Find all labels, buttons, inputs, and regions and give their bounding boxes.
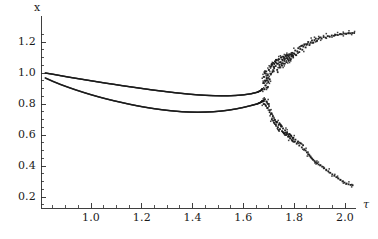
data-point [268, 106, 270, 108]
data-point [326, 170, 328, 172]
data-point [284, 134, 286, 136]
data-point [314, 36, 316, 38]
data-point [286, 60, 288, 62]
data-point [282, 67, 284, 69]
data-point [289, 136, 291, 138]
y-axis-tick-label: 1.0 [4, 66, 36, 79]
data-point [320, 40, 322, 42]
data-point [307, 43, 309, 45]
data-point [287, 58, 289, 60]
data-point [287, 62, 289, 64]
data-point [295, 139, 297, 141]
data-point [293, 139, 295, 141]
data-point [269, 76, 271, 78]
data-point [274, 123, 276, 125]
data-point [334, 174, 336, 176]
data-point [343, 35, 345, 37]
y-axis-tick-label: 0.6 [4, 128, 36, 141]
data-point [345, 183, 347, 185]
data-point [284, 129, 286, 131]
data-point [264, 88, 266, 90]
x-axis-tick-label: 1.2 [128, 211, 156, 224]
data-point [262, 88, 263, 89]
data-point [292, 55, 294, 57]
data-point [262, 74, 264, 76]
data-point [289, 62, 291, 64]
data-point [284, 63, 286, 65]
data-point [303, 149, 305, 151]
data-point [281, 57, 283, 59]
x-axis-tick-label: 1.4 [179, 211, 207, 224]
data-point [286, 129, 288, 131]
data-point [305, 147, 307, 149]
data-point [269, 79, 271, 81]
data-point [269, 83, 271, 85]
data-point [328, 36, 330, 38]
data-point [267, 67, 269, 69]
data-point [266, 107, 268, 109]
data-point [264, 80, 266, 82]
data-point [345, 33, 347, 35]
data-point [342, 31, 344, 33]
data-point [281, 65, 283, 67]
data-point [280, 63, 282, 65]
data-point [320, 164, 322, 166]
data-point [264, 73, 266, 75]
data-point [278, 56, 280, 58]
plot-area [0, 0, 378, 239]
data-point [315, 163, 317, 165]
data-point [301, 143, 303, 145]
data-point [272, 69, 274, 71]
data-point [337, 32, 339, 34]
data-point [281, 126, 283, 128]
data-point [277, 120, 279, 122]
data-point [312, 159, 314, 161]
data-point [303, 51, 305, 53]
data-point [270, 67, 272, 69]
y-axis-tick-label: 0.8 [4, 97, 36, 110]
data-point [316, 41, 318, 43]
data-point [294, 50, 296, 52]
data-point [277, 60, 279, 62]
data-point [305, 150, 307, 152]
data-point [269, 115, 271, 117]
data-point [348, 181, 350, 183]
data-point [292, 141, 294, 143]
data-point [277, 128, 279, 130]
data-point [282, 128, 284, 130]
data-point [337, 34, 339, 36]
data-point [268, 77, 270, 79]
data-point [310, 37, 312, 39]
data-point [265, 75, 267, 77]
data-point [266, 89, 268, 91]
data-point [269, 111, 271, 113]
data-point [284, 60, 286, 62]
data-point [326, 38, 328, 40]
data-point [310, 155, 312, 157]
data-point [286, 52, 288, 54]
data-point [351, 186, 353, 188]
data-point [274, 120, 276, 122]
data-point [328, 168, 330, 170]
data-point [264, 70, 266, 72]
data-point [331, 173, 333, 175]
data-point [279, 64, 281, 66]
data-point [326, 33, 328, 35]
data-point [273, 118, 275, 120]
data-point [270, 109, 272, 111]
data-point [269, 73, 271, 75]
data-point [282, 56, 284, 58]
data-point [293, 47, 295, 49]
data-point [331, 36, 333, 38]
data-point [318, 161, 320, 163]
data-point [294, 141, 296, 143]
data-point [353, 32, 355, 34]
data-point [309, 154, 311, 156]
data-point [298, 143, 300, 145]
data-point [331, 175, 333, 177]
data-point [262, 91, 264, 93]
data-point [273, 66, 275, 68]
data-point [263, 101, 265, 103]
data-point [267, 99, 269, 101]
data-point [264, 83, 266, 85]
